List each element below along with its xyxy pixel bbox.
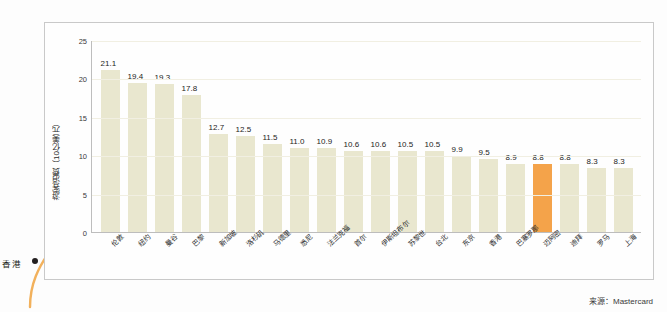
bar-column[interactable]: 11.5 bbox=[259, 41, 286, 232]
bar[interactable]: 19.4 bbox=[128, 83, 148, 232]
bar-value-label: 17.8 bbox=[182, 84, 198, 93]
bar-column[interactable]: 10.6 bbox=[340, 41, 367, 232]
gridline bbox=[92, 195, 641, 196]
x-label-column: 东京 bbox=[448, 235, 475, 281]
x-tick-label: 上海 bbox=[622, 232, 639, 249]
gridline bbox=[92, 156, 641, 157]
chart-page: 香港 游客消费（10亿美元） 2520151050 21.119.419.317… bbox=[0, 0, 667, 312]
bar[interactable]: 12.7 bbox=[209, 134, 229, 232]
annotation-label: 香港 bbox=[2, 257, 21, 269]
bar-value-label: 8.8 bbox=[533, 153, 544, 162]
bar-column[interactable]: 19.3 bbox=[151, 41, 178, 232]
bar[interactable]: 8.9 bbox=[506, 164, 526, 232]
bar[interactable]: 8.3 bbox=[614, 168, 634, 232]
x-label-column: 法兰克福 bbox=[312, 235, 339, 281]
x-label-column: 曼谷 bbox=[150, 235, 177, 281]
bar-value-label: 8.3 bbox=[587, 157, 598, 166]
y-tick-label: 25 bbox=[79, 37, 87, 46]
bar-value-label: 11.0 bbox=[290, 137, 305, 146]
y-tick-label: 0 bbox=[83, 229, 87, 238]
bar-column[interactable]: 9.9 bbox=[448, 41, 475, 232]
bar-column[interactable]: 21.1 bbox=[97, 41, 124, 232]
x-label-column: 罗马 bbox=[583, 235, 610, 281]
y-tick-label: 5 bbox=[83, 190, 87, 199]
bar[interactable]: 10.6 bbox=[344, 151, 364, 232]
bar-value-label: 12.5 bbox=[236, 125, 252, 134]
chart-panel: 游客消费（10亿美元） 2520151050 21.119.419.317.81… bbox=[44, 22, 654, 280]
bar-column[interactable]: 8.9 bbox=[502, 41, 529, 232]
bar-value-label: 9.9 bbox=[452, 145, 463, 154]
annotation-dot bbox=[32, 258, 38, 264]
bar-value-label: 10.5 bbox=[425, 140, 441, 149]
bar-column[interactable]: 12.5 bbox=[232, 41, 259, 232]
x-label-column: 纽约 bbox=[123, 235, 150, 281]
bar-value-label: 8.8 bbox=[560, 153, 571, 162]
bar-value-label: 10.9 bbox=[317, 137, 333, 146]
x-axis-labels: 伦敦纽约曼谷巴黎新加坡洛杉矶马德里悉尼法兰克福首尔伊斯坦布尔苏黎世台北东京香港巴… bbox=[91, 235, 641, 281]
gridline bbox=[92, 41, 641, 42]
bar-column[interactable]: 10.5 bbox=[394, 41, 421, 232]
x-label-column: 迈阿密 bbox=[529, 235, 556, 281]
bar-column[interactable]: 9.5 bbox=[475, 41, 502, 232]
x-label-column: 伊斯坦布尔 bbox=[366, 235, 393, 281]
bar[interactable]: 8.8 bbox=[560, 164, 580, 232]
bar-column[interactable]: 11.0 bbox=[286, 41, 313, 232]
bar-value-label: 10.6 bbox=[344, 140, 360, 149]
bar-value-label: 19.3 bbox=[155, 73, 171, 82]
bar-column[interactable]: 17.8 bbox=[178, 41, 205, 232]
bar-column[interactable]: 10.9 bbox=[313, 41, 340, 232]
bar-value-label: 11.5 bbox=[263, 133, 278, 142]
x-label-column: 巴黎 bbox=[177, 235, 204, 281]
bar-column[interactable]: 10.5 bbox=[421, 41, 448, 232]
source-note: 来源：Mastercard bbox=[589, 295, 653, 306]
bar-column[interactable]: 8.8 bbox=[529, 41, 556, 232]
x-label-column: 迪拜 bbox=[556, 235, 583, 281]
y-axis-ticks: 2520151050 bbox=[63, 41, 89, 233]
x-label-column: 巴塞罗那 bbox=[502, 235, 529, 281]
x-label-column: 首尔 bbox=[339, 235, 366, 281]
bar-column[interactable]: 12.7 bbox=[205, 41, 232, 232]
bar-value-label: 10.6 bbox=[371, 140, 387, 149]
bar[interactable]: 10.6 bbox=[371, 151, 391, 232]
y-tick-label: 10 bbox=[79, 152, 87, 161]
x-label-column: 上海 bbox=[610, 235, 637, 281]
bar[interactable]: 12.5 bbox=[236, 136, 256, 232]
bar-column[interactable]: 19.4 bbox=[124, 41, 151, 232]
bar-value-label: 10.5 bbox=[398, 140, 414, 149]
gridline bbox=[92, 118, 641, 119]
plot-area: 21.119.419.317.812.712.511.511.010.910.6… bbox=[91, 41, 641, 233]
x-label-column: 伦敦 bbox=[96, 235, 123, 281]
bar[interactable]: 19.3 bbox=[155, 84, 175, 232]
bar[interactable]: 10.9 bbox=[317, 148, 337, 232]
bar-value-label: 12.7 bbox=[209, 123, 225, 132]
bar-value-label: 21.1 bbox=[101, 59, 117, 68]
gridline bbox=[92, 79, 641, 80]
bar[interactable]: 21.1 bbox=[101, 70, 121, 232]
bar[interactable]: 17.8 bbox=[182, 95, 202, 232]
x-label-column: 悉尼 bbox=[285, 235, 312, 281]
x-label-column: 台北 bbox=[421, 235, 448, 281]
bar[interactable]: 11.0 bbox=[290, 148, 310, 232]
bar-column[interactable]: 8.3 bbox=[583, 41, 610, 232]
bar[interactable]: 8.3 bbox=[587, 168, 607, 232]
bar[interactable]: 10.5 bbox=[425, 151, 445, 232]
x-label-column: 洛杉矶 bbox=[231, 235, 258, 281]
bar-column[interactable]: 8.3 bbox=[610, 41, 637, 232]
x-label-column: 香港 bbox=[475, 235, 502, 281]
bar-highlighted[interactable]: 8.8 bbox=[533, 164, 553, 232]
bar-series: 21.119.419.317.812.712.511.511.010.910.6… bbox=[92, 41, 641, 232]
bar-column[interactable]: 10.6 bbox=[367, 41, 394, 232]
bar-value-label: 8.3 bbox=[614, 157, 625, 166]
y-tick-label: 15 bbox=[79, 113, 87, 122]
x-label-column: 新加坡 bbox=[204, 235, 231, 281]
x-label-column: 苏黎世 bbox=[394, 235, 421, 281]
x-label-column: 马德里 bbox=[258, 235, 285, 281]
y-tick-label: 20 bbox=[79, 75, 87, 84]
plot-wrapper: 游客消费（10亿美元） 2520151050 21.119.419.317.81… bbox=[45, 23, 653, 279]
bar-column[interactable]: 8.8 bbox=[556, 41, 583, 232]
